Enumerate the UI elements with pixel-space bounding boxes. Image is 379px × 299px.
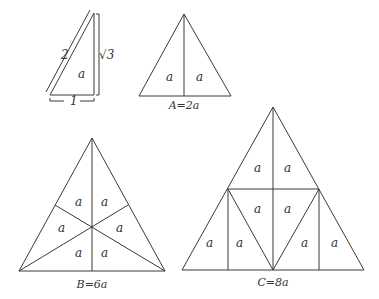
region-label: a (75, 246, 82, 260)
triangle-a: a a A=2a (139, 14, 231, 112)
region-label: a (58, 221, 65, 235)
region-label: a (196, 70, 203, 84)
base-dimension-left (50, 98, 64, 101)
triangle-b-median (19, 205, 128, 271)
region-label: a (254, 161, 261, 175)
area-label: a (78, 67, 85, 81)
triangle-b-caption: B=6a (76, 278, 108, 291)
triangle-b-median (55, 205, 165, 271)
region-label: a (254, 202, 261, 216)
triangle-c: a a a a a a a a C=8a (182, 107, 364, 289)
right-triangle-shape (50, 13, 94, 95)
triangle-b: a a a a a a B=6a (19, 138, 165, 291)
triangle-a-caption: A=2a (168, 99, 200, 112)
region-label: a (75, 195, 82, 209)
hypotenuse-label: 2 (60, 48, 69, 62)
base-label: 1 (70, 94, 78, 108)
region-label: a (301, 236, 308, 250)
triangle-c-inner-edge (273, 189, 319, 270)
triangle-a-outline (139, 14, 231, 96)
region-label: a (116, 221, 123, 235)
triangle-c-inner-edge (228, 189, 273, 270)
right-triangle: 2 √3 1 a (46, 10, 115, 108)
height-label: √3 (99, 48, 115, 62)
region-label: a (101, 195, 108, 209)
base-dimension-right (80, 98, 94, 101)
diagram-canvas: 2 √3 1 a a a A=2a a a a a a a B=6a a a a (0, 0, 379, 299)
region-label: a (206, 236, 213, 250)
region-label: a (331, 236, 338, 250)
region-label: a (284, 161, 291, 175)
region-label: a (236, 236, 243, 250)
region-label: a (101, 246, 108, 260)
region-label: a (166, 70, 173, 84)
region-label: a (284, 202, 291, 216)
triangle-c-caption: C=8a (257, 276, 288, 289)
